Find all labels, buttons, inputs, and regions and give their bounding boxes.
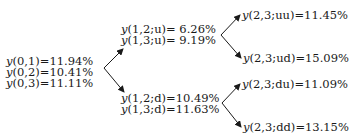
node-ud: y(2,3;ud)=15.09%: [243, 53, 349, 64]
arrow-d-up: [222, 84, 240, 103]
root-line-3: y(0,3)=11.11%: [6, 78, 93, 89]
arrow-u-down: [221, 35, 241, 58]
root-node: y(0,1)=11.94% y(0,2)=10.41% y(0,3)=11.11…: [6, 56, 93, 89]
arrow-root-down: [104, 68, 124, 92]
up-line-2: y(1,3;u)= 9.19%: [121, 35, 216, 46]
arrow-root-up: [104, 49, 123, 68]
node-uu: y(2,3;uu)=11.45%: [242, 10, 348, 21]
node-up: y(1,2;u)= 6.26% y(1,3;u)= 9.19%: [121, 24, 216, 46]
arrow-d-down: [222, 103, 241, 127]
node-down: y(1,2;d)=10.49% y(1,3;d)=11.63%: [121, 93, 220, 115]
arrow-u-up: [221, 15, 240, 35]
node-du: y(2,3;du)=11.09%: [242, 79, 348, 90]
down-line-2: y(1,3;d)=11.63%: [121, 104, 220, 115]
node-dd: y(2,3;dd)=13.15%: [243, 122, 349, 133]
